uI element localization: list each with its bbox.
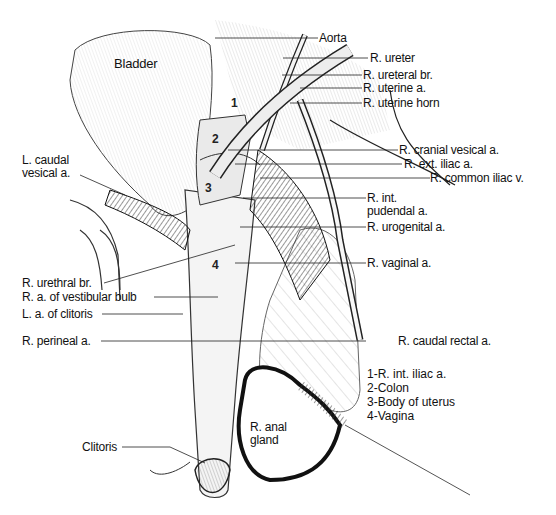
legend-item-4: 4-Vagina <box>367 409 455 423</box>
label-r-urethral-br: R. urethral br. <box>22 277 92 290</box>
label-l-caudal-vesical-a-line2: vesical a. <box>22 167 70 180</box>
label-aorta: Aorta <box>319 32 347 45</box>
label-r-int-pudendal-a: R. int. pudendal a. <box>367 192 428 218</box>
label-r-common-iliac-v: R. common iliac v. <box>430 172 524 185</box>
label-r-ureter: R. ureter <box>370 52 415 65</box>
label-r-caudal-rectal-a: R. caudal rectal a. <box>398 335 491 348</box>
marker-2: 2 <box>212 132 219 146</box>
label-r-anal-gland: R. anal gland <box>250 421 287 447</box>
label-l-caudal-vesical-a: L. caudal vesical a. <box>22 154 70 180</box>
legend-item-3: 3-Body of uterus <box>367 395 455 409</box>
marker-4: 4 <box>212 258 219 272</box>
marker-3: 3 <box>205 181 212 195</box>
label-r-a-of-vestibular-bulb: R. a. of vestibular bulb <box>22 291 137 304</box>
label-l-a-of-clitoris: L. a. of clitoris <box>22 308 93 321</box>
legend-item-2: 2-Colon <box>367 381 455 395</box>
label-r-cranial-vesical-a: R. cranial vesical a. <box>399 144 499 157</box>
legend: 1-R. int. iliac a. 2-Colon 3-Body of ute… <box>367 367 455 423</box>
marker-1: 1 <box>231 96 238 110</box>
label-bladder: Bladder <box>114 57 157 70</box>
label-r-uterine-a: R. uterine a. <box>363 82 426 95</box>
label-r-ext-iliac-a: R. ext. iliac a. <box>404 158 473 171</box>
label-r-anal-gland-line2: gland <box>250 434 287 447</box>
label-r-urogenital-a: R. urogenital a. <box>367 221 445 234</box>
label-r-vaginal-a: R. vaginal a. <box>367 257 431 270</box>
label-r-perineal-a: R. perineal a. <box>22 335 91 348</box>
legend-item-1: 1-R. int. iliac a. <box>367 367 455 381</box>
label-clitoris: Clitoris <box>82 441 117 454</box>
label-r-uterine-horn: R. uterine horn <box>363 97 439 110</box>
label-r-int-pudendal-a-line2: pudendal a. <box>367 205 428 218</box>
